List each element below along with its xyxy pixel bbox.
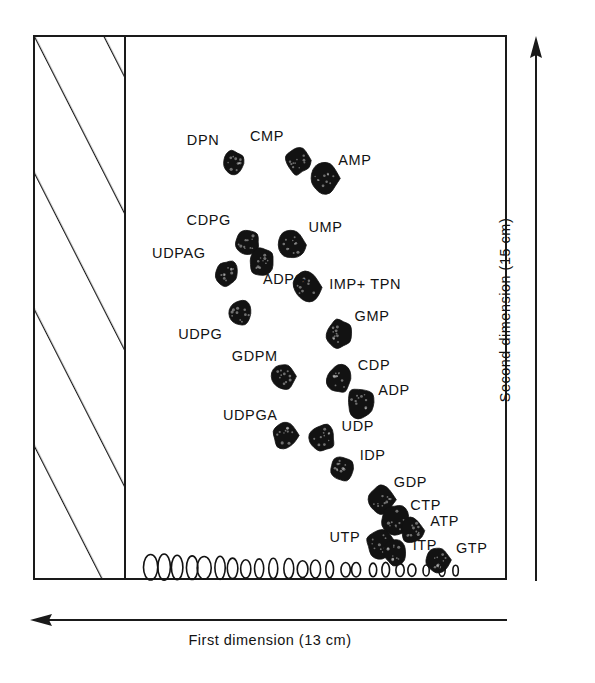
arrow-up-icon <box>528 36 544 581</box>
origin-hatched-band <box>33 35 126 580</box>
chromatography-figure: DPNCMPAMPCDPGUMPUDPAGADPGIMP+ TPNUDPGGMP… <box>0 0 595 683</box>
y-axis-arrow <box>528 36 544 581</box>
arrow-left-icon <box>30 612 507 628</box>
hatch-pattern-icon <box>33 35 126 580</box>
y-axis-label: Second dimension (15 cm) <box>497 190 513 430</box>
x-axis-label: First dimension (13 cm) <box>33 632 507 648</box>
x-axis-arrow <box>30 612 507 628</box>
